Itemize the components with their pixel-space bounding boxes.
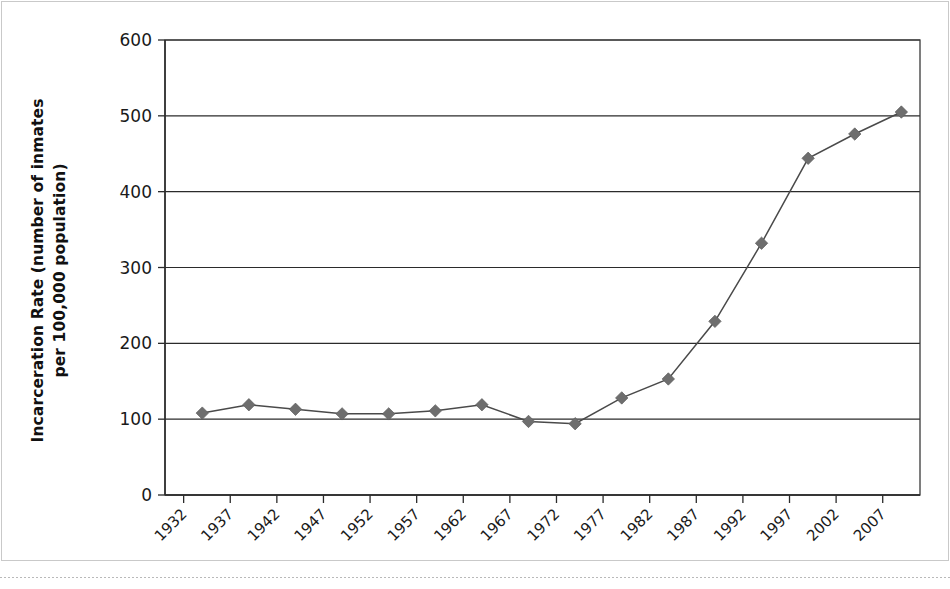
data-point-1979 xyxy=(616,392,628,404)
data-point-1939 xyxy=(243,399,255,411)
data-point-1954 xyxy=(383,408,395,420)
x-tick-label-2002: 2002 xyxy=(803,505,843,545)
data-point-1959 xyxy=(429,405,441,417)
y-tick-group: 0100200300400500600 xyxy=(120,30,165,505)
y-tick-label-300: 300 xyxy=(120,258,152,278)
y-tick-label-600: 600 xyxy=(120,30,152,50)
x-tick-label-1957: 1957 xyxy=(384,505,424,545)
x-tick-label-1947: 1947 xyxy=(291,505,331,545)
data-point-2004 xyxy=(849,128,861,140)
data-point-1944 xyxy=(289,403,301,415)
y-tick-label-100: 100 xyxy=(120,409,152,429)
data-point-1999 xyxy=(802,152,814,164)
x-tick-label-1972: 1972 xyxy=(524,505,564,545)
chart-plot-area: 0100200300400500600 19321937194219471952… xyxy=(0,0,950,589)
data-point-1964 xyxy=(476,399,488,411)
x-tick-label-1932: 1932 xyxy=(151,505,191,545)
x-tick-label-1937: 1937 xyxy=(197,505,237,545)
y-tick-label-500: 500 xyxy=(120,106,152,126)
data-point-1949 xyxy=(336,408,348,420)
y-tick-label-200: 200 xyxy=(120,333,152,353)
y-tick-label-0: 0 xyxy=(141,485,152,505)
chart-figure: Incarceration Rate (number of inmates pe… xyxy=(0,0,950,589)
gridline-group xyxy=(165,40,920,495)
x-tick-label-1952: 1952 xyxy=(337,505,377,545)
x-tick-label-1967: 1967 xyxy=(477,505,517,545)
x-tick-label-1982: 1982 xyxy=(617,505,657,545)
bottom-divider xyxy=(0,577,950,578)
x-tick-label-1992: 1992 xyxy=(710,505,750,545)
x-tick-label-1942: 1942 xyxy=(244,505,284,545)
data-point-1934 xyxy=(196,407,208,419)
x-tick-label-1987: 1987 xyxy=(663,505,703,545)
x-tick-label-1977: 1977 xyxy=(570,505,610,545)
x-tick-label-2007: 2007 xyxy=(850,505,890,545)
x-tick-label-1962: 1962 xyxy=(430,505,470,545)
data-point-1969 xyxy=(522,415,534,427)
x-tick-label-1997: 1997 xyxy=(757,505,797,545)
x-tick-group: 1932193719421947195219571962196719721977… xyxy=(151,495,890,545)
data-point-1994 xyxy=(755,237,767,249)
y-tick-label-400: 400 xyxy=(120,182,152,202)
